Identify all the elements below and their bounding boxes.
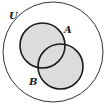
universe-label: U xyxy=(9,10,19,21)
set-b-label: B xyxy=(28,76,37,87)
set-a-label: A xyxy=(63,24,72,35)
venn-diagram: U A B xyxy=(0,0,106,104)
